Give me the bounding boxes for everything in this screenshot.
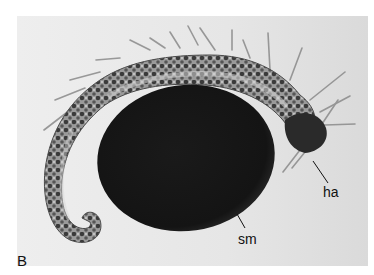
panel-letter: B — [17, 252, 27, 269]
figure-panel: ha sm B — [0, 0, 374, 275]
label-ha: ha — [323, 184, 339, 200]
label-sm: sm — [238, 231, 257, 247]
